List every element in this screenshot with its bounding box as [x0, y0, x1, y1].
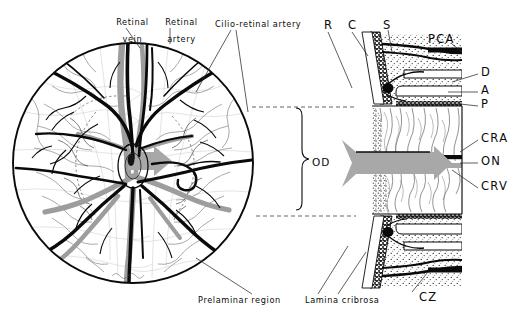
label-retinal-artery: Retinal artery — [146, 10, 204, 52]
label-retinal-vein-line2: vein — [123, 34, 143, 44]
figure-canvas: Retinal vein Retinal artery Cilio-retina… — [0, 0, 528, 320]
label-od: OD — [312, 157, 331, 168]
label-cz: CZ — [419, 292, 438, 304]
label-pca: PCA — [428, 34, 455, 46]
label-cra: CRA — [481, 133, 508, 145]
od-brace — [296, 108, 309, 210]
label-c: C — [348, 20, 357, 32]
label-crv: CRV — [481, 181, 508, 193]
label-s: S — [383, 20, 392, 32]
label-cilio-retinal-artery: Cilio-retinal artery — [215, 20, 301, 28]
label-d: D — [481, 67, 491, 79]
label-p: P — [481, 99, 489, 111]
label-lamina-cribrosa: Lamina cribrosa — [305, 296, 379, 304]
diagram-artwork — [0, 0, 528, 320]
label-retinal-artery-line1: Retinal — [165, 17, 198, 27]
label-a: A — [481, 85, 490, 97]
label-prelaminar-region: Prelaminar region — [198, 296, 281, 304]
label-r: R — [324, 20, 333, 32]
label-retinal-artery-line2: artery — [167, 34, 195, 44]
label-on: ON — [481, 156, 501, 168]
label-retinal-vein-line1: Retinal — [116, 17, 149, 27]
